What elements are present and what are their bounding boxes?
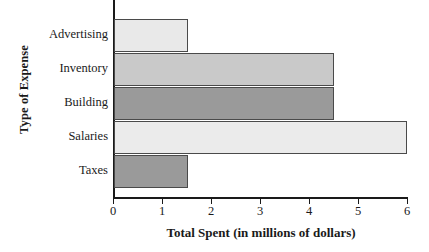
category-label-list: Advertising Inventory Building Salaries … (12, 19, 108, 189)
x-tick-label-2: 2 (201, 205, 221, 218)
bar-salaries (114, 121, 407, 154)
plot-area: 0 1 2 3 4 5 6 (113, 0, 409, 199)
category-label-inventory: Inventory (12, 62, 108, 75)
category-label-salaries: Salaries (12, 130, 108, 143)
x-tick-label-3: 3 (250, 205, 270, 218)
x-tick-label-6: 6 (397, 205, 417, 218)
category-label-advertising: Advertising (12, 28, 108, 41)
x-tick-label-5: 5 (348, 205, 368, 218)
category-label-taxes: Taxes (12, 164, 108, 177)
bar-inventory (114, 53, 334, 86)
x-tick-label-1: 1 (152, 205, 172, 218)
bar-chart: Type of Expense Advertising Inventory Bu… (0, 0, 429, 252)
bar-advertising (114, 19, 188, 52)
category-label-building: Building (12, 96, 108, 109)
bar-taxes (114, 155, 188, 188)
bar-building (114, 87, 334, 120)
x-tick-label-4: 4 (299, 205, 319, 218)
x-axis-title: Total Spent (in millions of dollars) (113, 225, 409, 241)
x-tick-label-0: 0 (103, 205, 123, 218)
